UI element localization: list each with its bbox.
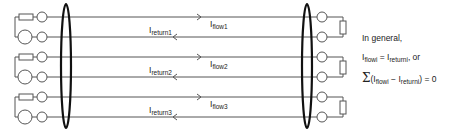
flow-label-3: Iflow3 xyxy=(210,99,228,110)
left-bundle-ellipse xyxy=(61,4,71,128)
general-equation-note: In general, Iflowi = Ireturni, or Σ(Iflo… xyxy=(362,29,436,91)
right-bundle-ellipse xyxy=(302,4,312,128)
terminal-icon xyxy=(37,12,47,22)
terminal-icon xyxy=(37,32,47,42)
source-icon xyxy=(18,110,32,124)
terminal-icon xyxy=(37,52,47,62)
source-resistor-icon xyxy=(19,94,33,100)
load-resistor-icon xyxy=(340,101,346,114)
terminal-icon xyxy=(317,12,327,22)
terminal-icon xyxy=(37,112,47,122)
load-resistor-icon xyxy=(340,21,346,34)
note-equality: Iflowi = Ireturni, or xyxy=(362,48,436,69)
source-icon xyxy=(18,30,32,44)
terminal-icon xyxy=(317,32,327,42)
return-label-3: Ireturn3 xyxy=(149,105,172,116)
return-label-2: Ireturn2 xyxy=(149,65,172,76)
terminal-icon xyxy=(317,72,327,82)
circuit-pair-2 xyxy=(15,52,346,84)
note-sum: Σ(Iflowi − Ireturni) = 0 xyxy=(362,69,436,91)
load-resistor-icon xyxy=(340,61,346,74)
return-label-1: Ireturn1 xyxy=(149,25,172,36)
flow-label-1: Iflow1 xyxy=(210,19,228,30)
circuit-pair-1 xyxy=(15,12,346,44)
circuit-pair-3 xyxy=(15,92,346,124)
terminal-icon xyxy=(317,52,327,62)
source-resistor-icon xyxy=(19,54,33,60)
note-intro: In general, xyxy=(362,29,436,48)
source-icon xyxy=(18,70,32,84)
terminal-icon xyxy=(317,112,327,122)
terminal-icon xyxy=(37,92,47,102)
flow-label-2: Iflow2 xyxy=(210,59,228,70)
terminal-icon xyxy=(37,72,47,82)
source-resistor-icon xyxy=(19,14,33,20)
terminal-icon xyxy=(317,92,327,102)
